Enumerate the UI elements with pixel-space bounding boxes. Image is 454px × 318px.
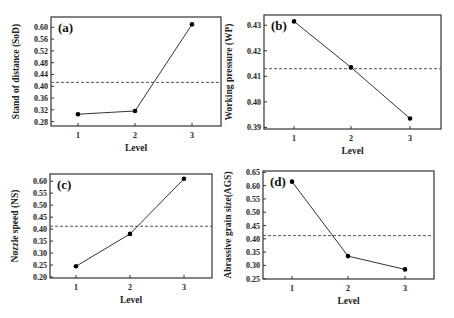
chart-panel-a: 0.280.320.360.400.440.480.520.560.60123L…	[11, 17, 221, 153]
panel-label: (c)	[57, 177, 71, 192]
y-tick-label: 0.65	[246, 168, 260, 177]
panel-label: (d)	[270, 174, 286, 189]
y-tick-label: 0.56	[34, 35, 48, 44]
y-axis-title: Nozzle speed (NS)	[10, 190, 21, 263]
x-tick-label: 2	[349, 134, 353, 143]
y-tick-label: 0.20	[33, 273, 47, 282]
y-tick-label: 0.30	[246, 261, 260, 270]
data-point-marker	[292, 19, 297, 24]
data-line	[294, 21, 410, 118]
data-point-marker	[346, 254, 351, 259]
x-axis-title: Level	[337, 296, 360, 306]
y-tick-label: 0.44	[34, 70, 48, 79]
y-axis-title: Abrassive grain size(AGS)	[223, 171, 234, 278]
panel-label: (b)	[271, 18, 287, 33]
x-axis-title: Level	[120, 295, 143, 305]
data-point-marker	[403, 267, 408, 272]
x-tick-label: 3	[403, 284, 407, 293]
y-tick-label: 0.35	[33, 237, 47, 246]
y-tick-label: 0.45	[246, 222, 260, 231]
y-tick-label: 0.55	[246, 195, 260, 204]
data-point-marker	[349, 65, 354, 70]
y-tick-label: 0.40	[247, 98, 261, 107]
y-tick-label: 0.50	[246, 208, 260, 217]
x-tick-label: 3	[190, 131, 194, 140]
data-point-marker	[190, 22, 195, 27]
y-tick-label: 0.60	[33, 177, 47, 186]
data-point-marker	[408, 116, 413, 121]
x-tick-label: 2	[133, 131, 137, 140]
y-tick-label: 0.60	[34, 23, 48, 32]
y-tick-label: 0.40	[33, 225, 47, 234]
x-tick-label: 1	[74, 283, 78, 292]
x-axis-title: Level	[125, 143, 148, 153]
data-point-marker	[74, 264, 79, 269]
main-effects-plots: 0.280.320.360.400.440.480.520.560.60123L…	[0, 0, 454, 318]
y-tick-label: 0.41	[247, 72, 261, 81]
data-point-marker	[128, 232, 133, 237]
y-tick-label: 0.43	[247, 21, 261, 30]
y-tick-label: 0.50	[33, 201, 47, 210]
plot-frame	[264, 15, 441, 129]
chart-panel-b: 0.390.400.410.420.43123LevelWorking pres…	[224, 15, 441, 156]
data-point-marker	[290, 179, 295, 184]
data-point-marker	[76, 112, 81, 117]
x-tick-label: 3	[182, 283, 186, 292]
y-tick-label: 0.30	[33, 249, 47, 258]
y-tick-label: 0.45	[33, 213, 47, 222]
y-tick-label: 0.28	[34, 118, 48, 127]
data-line	[78, 24, 192, 114]
y-tick-label: 0.55	[33, 189, 47, 198]
x-tick-label: 2	[128, 283, 132, 292]
y-tick-label: 0.36	[34, 94, 48, 103]
y-axis-title: Stand of distance (SoD)	[11, 24, 22, 119]
x-tick-label: 1	[290, 284, 294, 293]
y-tick-label: 0.60	[246, 182, 260, 191]
data-line	[76, 179, 184, 266]
y-tick-label: 0.32	[34, 106, 48, 115]
y-tick-label: 0.40	[246, 235, 260, 244]
y-tick-label: 0.48	[34, 59, 48, 68]
x-tick-label: 1	[292, 134, 296, 143]
data-point-marker	[182, 176, 187, 181]
chart-panel-d: 0.250.300.350.400.450.500.550.600.65123L…	[223, 168, 434, 306]
y-tick-label: 0.35	[246, 248, 260, 257]
x-tick-label: 3	[408, 134, 412, 143]
chart-panel-c: 0.200.250.300.350.400.450.500.550.60123L…	[10, 174, 212, 305]
panel-label: (a)	[58, 20, 73, 35]
x-axis-title: Level	[341, 146, 364, 156]
x-tick-label: 1	[76, 131, 80, 140]
plot-frame	[263, 171, 434, 279]
y-tick-label: 0.40	[34, 82, 48, 91]
y-tick-label: 0.39	[247, 123, 261, 132]
x-tick-label: 2	[346, 284, 350, 293]
data-point-marker	[133, 109, 138, 114]
y-tick-label: 0.25	[246, 275, 260, 284]
y-tick-label: 0.42	[247, 47, 261, 56]
y-tick-label: 0.52	[34, 47, 48, 56]
y-axis-title: Working pressure (WP)	[224, 24, 235, 121]
y-tick-label: 0.25	[33, 261, 47, 270]
